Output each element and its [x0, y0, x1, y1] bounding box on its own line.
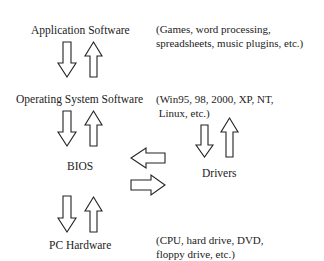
arrow-up-icon	[85, 42, 102, 77]
arrow-down-icon	[58, 196, 76, 232]
arrow-right-icon	[131, 175, 165, 195]
arrow-up-icon	[85, 111, 102, 146]
arrow-down-icon	[58, 42, 76, 77]
arrow-up-icon	[85, 197, 102, 232]
arrow-left-icon	[131, 148, 165, 168]
arrows-layer	[0, 0, 324, 261]
arrow-down-icon	[58, 111, 76, 146]
arrow-down-icon	[196, 125, 213, 157]
arrow-up-icon	[221, 118, 238, 157]
